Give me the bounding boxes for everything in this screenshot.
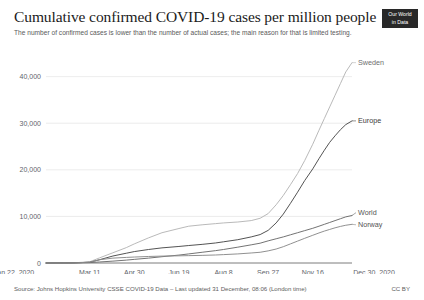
y-axis-labels-group: 010,00020,00030,00040,000 <box>20 73 42 266</box>
x-axis-tick-label: Aug 8 <box>214 269 232 274</box>
chart-subtitle: The number of confirmed cases is lower t… <box>14 28 364 37</box>
chart-header: Cumulative confirmed COVID-19 cases per … <box>14 8 364 37</box>
license-note[interactable]: CC BY <box>391 285 410 292</box>
logo-line-2: in Data <box>382 19 418 27</box>
series-line-europe <box>46 121 352 263</box>
series-label-sweden: Sweden <box>358 58 384 67</box>
source-note: Source: Johns Hopkins University CSSE CO… <box>14 285 307 292</box>
y-axis-tick-label: 0 <box>37 260 41 267</box>
x-axis-tick-label: Nov 16 <box>302 269 324 274</box>
page-title: Cumulative confirmed COVID-19 cases per … <box>14 8 364 25</box>
series-lines-group <box>46 63 352 263</box>
chart-card: Cumulative confirmed COVID-19 cases per … <box>0 0 424 300</box>
x-axis-tick-label: Jan 22, 2020 <box>0 269 34 274</box>
chart-footer: Source: Johns Hopkins University CSSE CO… <box>14 285 410 292</box>
x-axis-tick-label: Mar 11 <box>79 269 100 274</box>
x-axis-tick-label: Sep 27 <box>257 269 279 274</box>
series-label-connector-world <box>352 213 356 216</box>
series-label-europe: Europe <box>358 116 381 125</box>
y-axis-tick-label: 40,000 <box>20 73 42 80</box>
y-axis-tick-label: 20,000 <box>20 166 42 173</box>
x-axis-tick-label: Jun 19 <box>168 269 189 274</box>
x-axis-labels-group: Jan 22, 2020Mar 11Apr 30Jun 19Aug 8Sep 2… <box>0 269 395 274</box>
x-axis-tick-label: Dec 30, 2020 <box>353 269 395 274</box>
y-axis-tick-label: 10,000 <box>20 213 42 220</box>
our-world-in-data-logo[interactable]: Our World in Data <box>382 9 418 28</box>
y-axis-tick-label: 30,000 <box>20 120 42 127</box>
series-label-norway: Norway <box>358 220 383 229</box>
logo-line-1: Our World <box>382 11 418 19</box>
x-axis-tick-label: Apr 30 <box>124 269 145 274</box>
line-chart-svg: 010,00020,00030,00040,000 Jan 22, 2020Ma… <box>0 42 424 274</box>
series-line-sweden <box>46 63 352 263</box>
gridlines-group <box>46 77 352 263</box>
series-labels-group: SwedenEuropeWorldNorway <box>352 58 384 229</box>
chart-plot-area: 010,00020,00030,00040,000 Jan 22, 2020Ma… <box>0 42 424 274</box>
series-label-world: World <box>358 208 377 217</box>
